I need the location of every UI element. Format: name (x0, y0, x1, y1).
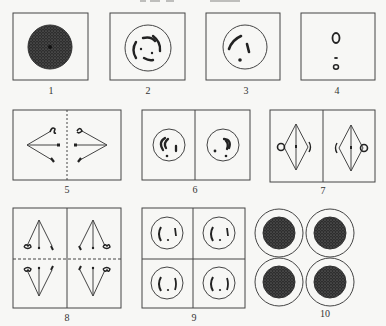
figure-canvas: 1 2 3 4 5 6 7 8 9 10 (0, 0, 386, 326)
panel-label-5: 5 (65, 185, 70, 195)
panel-1 (13, 13, 88, 80)
panel-10 (255, 209, 354, 306)
panel-label-10: 10 (320, 309, 330, 319)
panel-7 (270, 110, 375, 182)
panel-label-8: 8 (65, 313, 70, 323)
panel-label-6: 6 (193, 185, 198, 195)
panel-2 (110, 13, 185, 80)
cropped-caption (140, 0, 240, 2)
panel-label-7: 7 (321, 186, 326, 196)
panel-8 (13, 208, 121, 308)
figure-svg (0, 0, 386, 326)
panel-label-4: 4 (335, 86, 340, 96)
panel-9 (142, 208, 245, 308)
panel-6 (142, 110, 250, 180)
panel-label-9: 9 (192, 313, 197, 323)
panel-4 (301, 13, 375, 80)
panel-label-2: 2 (146, 86, 151, 96)
panel-label-1: 1 (49, 86, 54, 96)
panel-3 (206, 13, 280, 80)
panel-5 (13, 110, 121, 182)
panel-label-3: 3 (244, 86, 249, 96)
